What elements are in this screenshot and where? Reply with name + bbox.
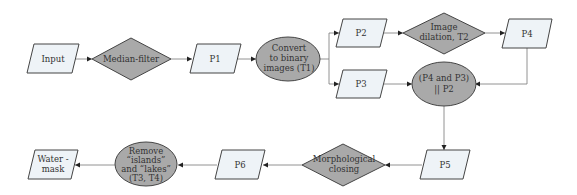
node-label: mask <box>42 164 65 174</box>
edge-convert-p3 <box>329 59 339 84</box>
node-remove-islands-lakes: Remove “islands” and “lakes” (T3, T4) <box>115 142 177 186</box>
edge-p4-combine <box>475 48 527 84</box>
node-label: P2 <box>355 28 366 38</box>
flowchart-canvas: Input Median-filter P1 Convert to binary… <box>0 0 577 195</box>
node-label: P3 <box>355 79 366 89</box>
node-label: (P4 and P3) <box>419 73 469 83</box>
node-label: P1 <box>209 54 220 64</box>
node-p4: P4 <box>502 19 552 48</box>
node-p5: P5 <box>420 150 470 179</box>
node-label: P5 <box>439 160 450 170</box>
node-label: P6 <box>234 160 245 170</box>
node-label: || P2 <box>434 84 454 95</box>
node-label: Water - <box>37 154 68 164</box>
node-label: dilation, T2 <box>419 32 468 42</box>
node-label: Image <box>431 22 458 32</box>
node-label: closing <box>329 164 360 174</box>
node-image-dilation: Image dilation, T2 <box>403 13 485 54</box>
node-input: Input <box>27 44 79 73</box>
node-label: Median-filter <box>103 54 160 64</box>
node-label: to binary <box>270 53 309 63</box>
node-p6: P6 <box>215 150 265 179</box>
node-p2: P2 <box>336 19 387 47</box>
node-label: Morphological <box>313 154 376 164</box>
node-water-mask: Water - mask <box>28 150 78 179</box>
node-p3: P3 <box>336 70 387 98</box>
node-morphological-closing: Morphological closing <box>302 144 385 186</box>
node-label: Convert <box>272 43 307 53</box>
node-label: images (T1) <box>263 63 314 73</box>
node-label: Input <box>41 54 65 64</box>
node-median-filter: Median-filter <box>92 38 171 80</box>
node-convert-binary: Convert to binary images (T1) <box>256 37 320 81</box>
node-label: P4 <box>521 29 532 39</box>
node-combine: (P4 and P3) || P2 <box>412 62 476 106</box>
node-label: (T3, T4) <box>129 173 163 183</box>
node-p1: P1 <box>190 44 241 73</box>
